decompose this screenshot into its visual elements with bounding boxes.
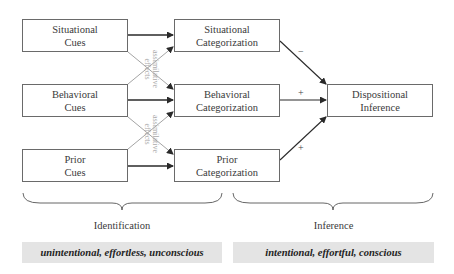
box-label: Situational xyxy=(204,23,250,36)
cross-label-line: assimilative xyxy=(151,39,159,99)
box-label: Situational xyxy=(52,23,98,36)
box-label: Cues xyxy=(65,36,86,49)
box-label: Prior xyxy=(217,153,238,166)
box-label: Behavioral xyxy=(204,88,250,101)
assimilative-effects-label-lower: assimilative effects xyxy=(143,104,159,164)
box-label: Inference xyxy=(360,101,400,114)
brace-inference xyxy=(233,193,433,210)
cross-label-line: assimilative xyxy=(151,104,159,164)
box-label: Behavioral xyxy=(52,88,98,101)
inference-description-band: intentional, effortful, conscious xyxy=(233,242,434,263)
assimilative-effects-label-upper: assimilative effects xyxy=(143,39,159,99)
situational-cues-box: Situational Cues xyxy=(22,19,128,52)
cross-label-line: effects xyxy=(143,104,151,164)
brace-identification xyxy=(23,193,222,210)
sign-prior: + xyxy=(298,142,304,153)
behavioral-categorization-box: Behavioral Categorization xyxy=(174,84,280,117)
box-label: Cues xyxy=(65,101,86,114)
sign-situational: − xyxy=(298,46,304,57)
box-label: Cues xyxy=(65,166,86,179)
sign-behavioral: + xyxy=(298,87,304,98)
inference-label: Inference xyxy=(233,220,434,231)
identification-label: Identification xyxy=(22,220,222,231)
box-label: Prior xyxy=(65,153,86,166)
cross-label-line: effects xyxy=(143,39,151,99)
box-label: Categorization xyxy=(196,101,258,114)
prior-cues-box: Prior Cues xyxy=(22,149,128,182)
behavioral-cues-box: Behavioral Cues xyxy=(22,84,128,117)
box-label: Categorization xyxy=(196,166,258,179)
situational-categorization-box: Situational Categorization xyxy=(174,19,280,52)
box-label: Categorization xyxy=(196,36,258,49)
dispositional-inference-box: Dispositional Inference xyxy=(327,84,433,117)
box-label: Dispositional xyxy=(352,88,408,101)
identification-description-band: unintentional, effortless, unconscious xyxy=(22,242,222,263)
prior-categorization-box: Prior Categorization xyxy=(174,149,280,182)
